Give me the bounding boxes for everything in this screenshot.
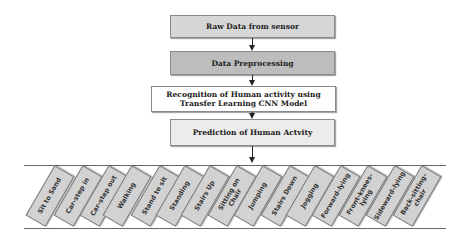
step-label: Raw Data from sensor — [206, 22, 299, 31]
step-raw-data: Raw Data from sensor — [170, 15, 335, 38]
step-label: Data Preprocessing — [211, 59, 293, 68]
step-preprocessing: Data Preprocessing — [170, 51, 335, 75]
step-prediction: Prediction of Human Actvity — [170, 119, 335, 146]
step-label: Recognition of Human activity using Tran… — [152, 90, 335, 108]
step-recognition: Recognition of Human activity using Tran… — [151, 86, 336, 112]
arrow-down-icon — [249, 157, 255, 163]
activities-bottom-rule — [24, 228, 446, 229]
step-label: Prediction of Human Actvity — [193, 128, 313, 137]
